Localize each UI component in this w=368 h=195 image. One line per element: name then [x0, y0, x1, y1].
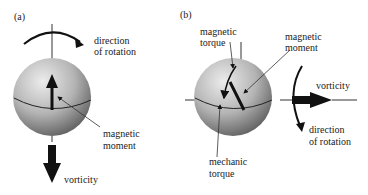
vorticity-label-b: vorticity [316, 80, 350, 91]
moment-label-a-line1: magnetic [103, 128, 140, 139]
magnetic-torque-label-line1: magnetic [200, 26, 237, 37]
mechanic-torque-label-line1: mechanic [209, 156, 247, 167]
mechanic-torque-label-line2: torque [209, 168, 235, 179]
panel-b-label: (b) [180, 9, 192, 20]
moment-label-b-line1: magnetic [285, 31, 322, 42]
panel-a-label: (a) [14, 11, 25, 22]
moment-label-a-line2: moment [103, 140, 136, 151]
vorticity-arrow-shaft-b [292, 96, 312, 104]
rotation-label-a-line2: of rotation [94, 46, 136, 57]
diagram-canvas [0, 0, 368, 195]
rotation-label-b-line2: of rotation [309, 136, 351, 147]
rotation-label-b-line1: direction [309, 124, 345, 135]
rotation-arrowhead-b [296, 122, 305, 132]
vorticity-arrowhead-a [43, 163, 61, 183]
magnetic-torque-label-line2: torque [200, 37, 226, 48]
vorticity-label-a: vorticity [64, 174, 98, 185]
rotation-arrowhead-a [75, 38, 84, 48]
rotation-label-a-line1: direction [94, 35, 130, 46]
moment-label-b-line2: moment [285, 42, 318, 53]
panel-a [13, 24, 100, 183]
vorticity-arrow-shaft-a [48, 145, 56, 163]
vorticity-arrowhead-b [310, 92, 332, 108]
